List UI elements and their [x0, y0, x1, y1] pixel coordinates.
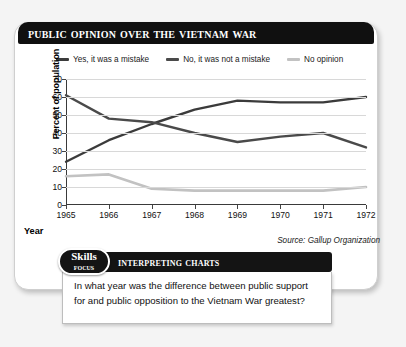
gridline: [66, 79, 366, 80]
chart-plot-area: 0102030405060701965196619671968196919701…: [66, 79, 366, 205]
gridline: [66, 169, 366, 170]
x-tick-label: 1971: [314, 210, 333, 220]
x-tick-label: 1972: [356, 210, 375, 220]
chart-line-0: [66, 97, 366, 162]
y-tick-label: 10: [52, 182, 62, 192]
y-tick-label: 0: [57, 200, 62, 210]
legend-swatch-no: [166, 58, 179, 61]
source-note: Source: Gallup Organization: [277, 236, 380, 245]
skills-focus-badge-line2: Focus: [74, 263, 94, 272]
question-text: In what year was the difference between …: [74, 279, 320, 309]
y-tick-mark: [62, 79, 66, 80]
skills-focus-badge-line1: Skills: [71, 251, 97, 262]
x-tick-mark: [152, 205, 153, 209]
chart-region: Percent of population 010203040506070196…: [24, 74, 374, 214]
x-tick-label: 1965: [56, 210, 75, 220]
y-tick-mark: [62, 187, 66, 188]
x-tick-mark: [366, 205, 367, 209]
x-axis-title: Year: [24, 226, 43, 236]
x-tick-label: 1966: [99, 210, 118, 220]
chart-line-2: [66, 174, 366, 190]
gridline: [66, 133, 366, 134]
x-tick-mark: [109, 205, 110, 209]
legend-swatch-no-opinion: [287, 58, 300, 61]
figure-title-banner: Public Opinion Over the Vietnam War: [18, 22, 374, 44]
x-tick-mark: [66, 205, 67, 209]
y-tick-label: 30: [52, 146, 62, 156]
legend-label-yes: Yes, it was a mistake: [73, 55, 149, 64]
x-tick-mark: [237, 205, 238, 209]
gridline: [66, 115, 366, 116]
skills-focus-badge: Skills Focus: [58, 248, 110, 275]
legend-item-no: No, it was not a mistake: [166, 55, 270, 64]
x-tick-label: 1969: [228, 210, 247, 220]
gridline: [66, 151, 366, 152]
y-tick-label: 50: [52, 110, 62, 120]
y-tick-label: 70: [52, 74, 62, 84]
y-tick-mark: [62, 115, 66, 116]
x-tick-label: 1970: [271, 210, 290, 220]
gridline: [66, 187, 366, 188]
x-tick-label: 1968: [185, 210, 204, 220]
gridline: [66, 97, 366, 98]
legend-label-no: No, it was not a mistake: [183, 55, 270, 64]
y-tick-mark: [62, 169, 66, 170]
y-tick-label: 40: [52, 128, 62, 138]
y-tick-mark: [62, 97, 66, 98]
x-tick-mark: [195, 205, 196, 209]
chart-legend: Yes, it was a mistake No, it was not a m…: [56, 52, 376, 66]
question-box: In what year was the difference between …: [62, 272, 332, 324]
y-tick-label: 20: [52, 164, 62, 174]
x-tick-mark: [280, 205, 281, 209]
x-tick-mark: [323, 205, 324, 209]
y-tick-label: 60: [52, 92, 62, 102]
legend-item-yes: Yes, it was a mistake: [56, 55, 149, 64]
legend-item-no-opinion: No opinion: [287, 55, 343, 64]
y-tick-mark: [62, 133, 66, 134]
legend-label-no-opinion: No opinion: [304, 55, 343, 64]
y-tick-mark: [62, 151, 66, 152]
x-tick-label: 1967: [142, 210, 161, 220]
